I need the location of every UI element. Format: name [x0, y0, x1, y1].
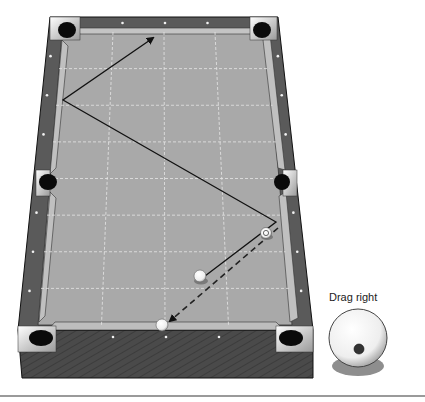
rail-diamond: [35, 211, 38, 214]
rail-diamond: [280, 94, 283, 97]
pocket-bottom-right: [279, 330, 303, 346]
object-ball[interactable]: [156, 319, 168, 331]
spin-instruction-label: Drag right: [329, 291, 377, 303]
pocket-side-right: [274, 174, 290, 190]
rail-diamond: [165, 336, 168, 339]
pocket-top-left: [58, 22, 76, 38]
rail-diamond: [277, 55, 280, 58]
bottom-divider: [0, 395, 425, 397]
rail-diamond: [164, 22, 167, 25]
spin-contact-point[interactable]: [354, 344, 364, 354]
rail-diamond: [284, 133, 287, 136]
rail-diamond: [32, 250, 35, 253]
pocket-bottom-left: [29, 330, 53, 346]
rail-diamond: [46, 94, 49, 97]
rail-diamond: [296, 250, 299, 253]
rail-diamond: [300, 290, 303, 293]
rail-diamond: [49, 55, 52, 58]
pocket-top-right: [253, 22, 271, 38]
rail-diamond: [28, 290, 31, 293]
rail-diamond: [112, 336, 115, 339]
pocket-side-left: [39, 174, 57, 190]
pool-table-scene: [0, 0, 425, 402]
cushion-top: [75, 28, 256, 34]
rail-diamond: [292, 211, 295, 214]
rail-diamond: [206, 22, 209, 25]
spin-control[interactable]: [329, 309, 387, 376]
rail-diamond: [218, 336, 221, 339]
spin-ball[interactable]: [329, 309, 387, 367]
rail-diamond: [121, 22, 124, 25]
rail-diamond: [42, 133, 45, 136]
